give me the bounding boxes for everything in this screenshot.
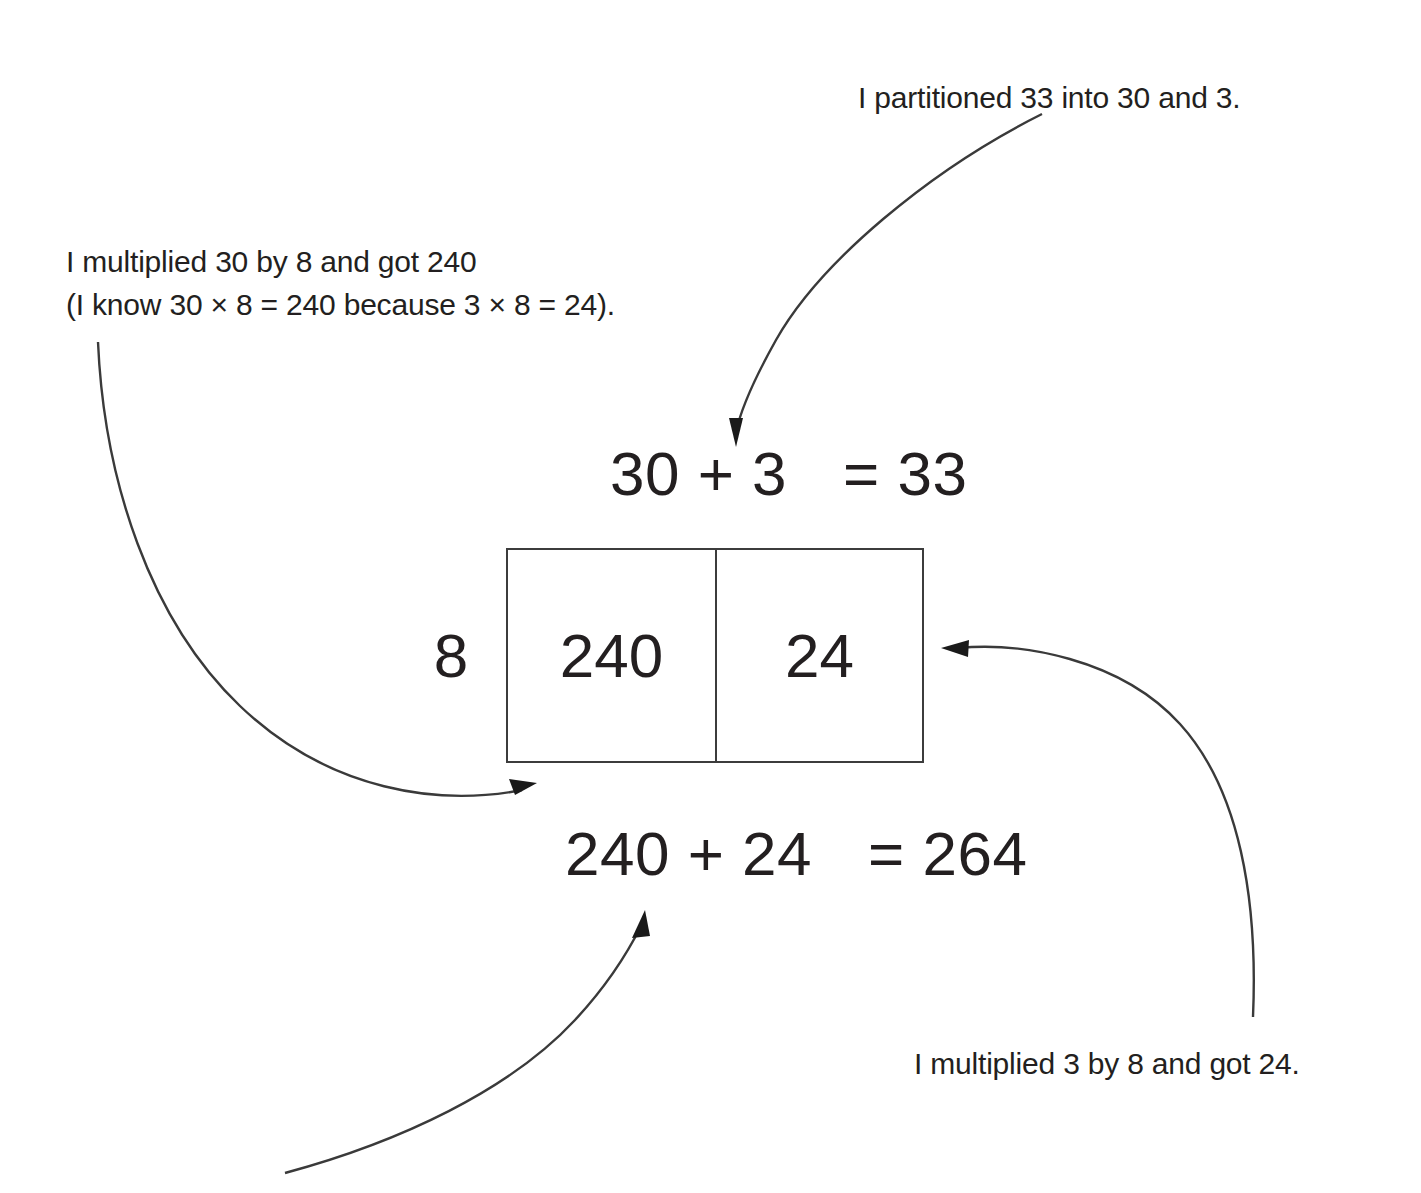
equation-top: 30 + 3= 33 — [610, 443, 968, 505]
grid-cell-product-24: 24 — [715, 550, 922, 761]
equation-bottom-operator: = — [868, 819, 905, 888]
equation-top-operator: = — [843, 439, 880, 508]
annotation-multiply-3: I multiplied 3 by 8 and got 24. — [914, 1042, 1300, 1085]
annotation-partition: I partitioned 33 into 30 and 3. — [858, 76, 1240, 119]
equation-bottom: 240 + 24= 264 — [565, 823, 1027, 885]
arrow-partition-to-top-equation — [729, 114, 1042, 447]
equation-top-left: 30 + 3 — [610, 439, 787, 508]
grid-multiplier-label: 8 — [406, 548, 496, 763]
equation-bottom-result: 264 — [923, 819, 1028, 888]
annotation-multiply-30-line2: (I know 30 × 8 = 240 because 3 × 8 = 24)… — [66, 288, 615, 321]
annotation-multiply-30-line1: I multiplied 30 by 8 and got 240 — [66, 245, 477, 278]
worksheet-canvas: I partitioned 33 into 30 and 3. I multip… — [0, 0, 1421, 1193]
grid-cell-product-240: 240 — [508, 550, 715, 761]
equation-bottom-left: 240 + 24 — [565, 819, 812, 888]
equation-top-result: 33 — [898, 439, 968, 508]
annotation-multiply-30: I multiplied 30 by 8 and got 240(I know … — [66, 240, 615, 326]
area-model-grid: 240 24 — [506, 548, 924, 763]
arrow-to-bottom-equation — [285, 910, 650, 1173]
